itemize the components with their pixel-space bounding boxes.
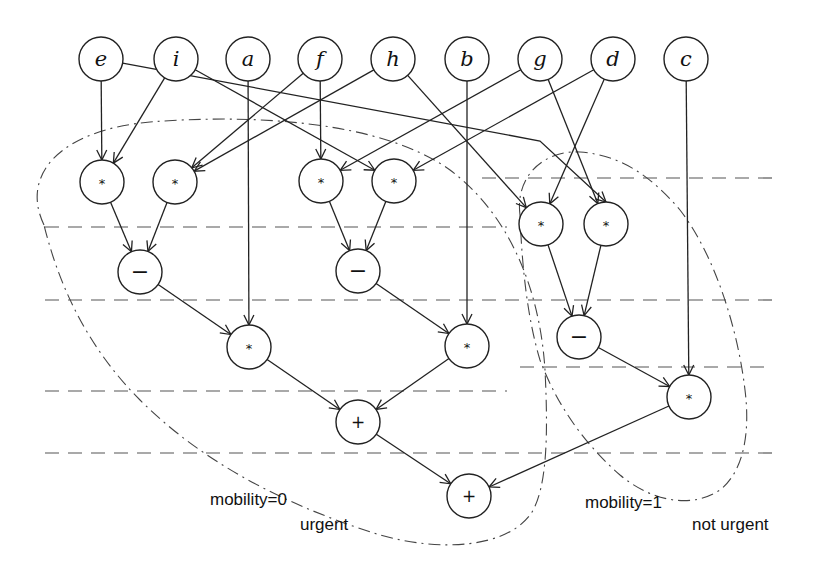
input-node-g: g [518,37,562,81]
edge-line [376,283,449,333]
add-operator-icon: + [351,412,365,432]
edge-line [489,406,669,487]
edge-line [550,79,604,204]
edge-m3-s2 [329,201,350,250]
edge-b-m8 [462,81,472,324]
input-node-c: c [664,37,708,81]
mul-operator-icon: * [686,391,693,406]
edge-line [584,245,601,315]
edge-p1-p2 [376,434,450,484]
edge-g-m6 [548,79,599,203]
schedule-step-boundaries [45,178,772,453]
mul-operator-icon: * [318,175,325,190]
edge-line [320,81,321,159]
op-node-mul: * [227,325,271,369]
edge-h-m2 [194,70,374,171]
right-mobility-label: mobility=1 [585,493,662,512]
edge-line [248,81,249,325]
sub-operator-icon: − [131,259,149,284]
input-node-label: d [606,47,619,71]
edge-d-m5 [549,79,604,204]
input-node-d: d [591,37,635,81]
left-urgency-label: urgent [300,515,348,534]
edge-line [101,81,102,160]
right-urgency-label: not urgent [692,515,769,534]
edge-a-m7 [244,81,254,325]
input-node-label: c [680,47,692,71]
edge-line [329,201,349,250]
input-node-label: b [460,47,473,71]
not-urgent-region-outline [519,152,746,501]
mul-operator-icon: * [99,176,106,191]
edge-line [267,359,340,409]
op-node-mul: * [584,202,628,246]
op-node-mul: * [667,375,711,419]
edge-line [366,201,386,250]
input-node-a: a [226,37,270,81]
input-node-e: e [79,37,123,81]
op-node-add: + [447,474,491,518]
edge-m4-s2 [365,201,386,250]
input-node-label: i [173,47,180,71]
mul-operator-icon: * [246,341,253,356]
mul-operator-icon: * [172,176,179,191]
mul-operator-icon: * [464,340,471,355]
op-node-sub: − [118,250,162,294]
edge-m7-p1 [267,359,340,409]
op-node-mul: * [299,159,343,203]
edge-m8-p1 [376,359,449,410]
mul-operator-icon: * [603,218,610,233]
op-node-mul: * [519,202,563,246]
mul-operator-icon: * [391,175,398,190]
op-node-sub: − [557,315,601,359]
edge-line [548,79,598,203]
input-node-label: a [242,47,255,71]
add-operator-icon: + [462,486,476,506]
edge-s1-m7 [158,284,231,334]
op-node-sub: − [336,249,380,293]
dependency-edges [97,63,694,487]
edge-line [376,434,450,484]
op-node-mul: * [445,324,489,368]
data-flow-graph: eiafhbgdc******−−−***++ mobility=0 urgen… [0,0,830,570]
mul-operator-icon: * [538,218,545,233]
sub-operator-icon: − [349,258,367,283]
edge-line [376,359,449,410]
op-node-mul: * [80,160,124,204]
input-node-h: h [371,37,415,81]
edge-line [194,70,374,171]
sub-operator-icon: − [570,324,588,349]
input-node-label: h [386,47,400,71]
input-node-b: b [445,37,489,81]
graph-nodes: eiafhbgdc******−−−***++ [79,37,711,518]
edge-line [111,202,132,251]
edge-line [158,284,231,334]
input-node-i: i [154,37,198,81]
edge-i-m1 [113,78,164,163]
edge-s2-m8 [376,283,449,333]
left-mobility-label: mobility=0 [210,490,287,509]
op-node-mul: * [153,160,197,204]
edge-m9-p2 [489,406,669,487]
edge-e-m1 [97,81,107,160]
input-node-label: g [533,47,546,71]
op-node-mul: * [372,159,416,203]
op-node-add: + [336,400,380,444]
edge-line [548,245,572,316]
edge-f-m3 [316,81,326,159]
edge-d-m4 [413,70,594,171]
input-node-f: f [298,37,342,81]
edge-m1-s1 [111,202,133,251]
edge-line [113,78,164,163]
edge-m5-s3 [548,245,574,316]
edge-m6-s3 [582,245,601,315]
edge-line [686,81,689,375]
edge-line [413,70,594,171]
input-node-label: e [95,47,107,71]
